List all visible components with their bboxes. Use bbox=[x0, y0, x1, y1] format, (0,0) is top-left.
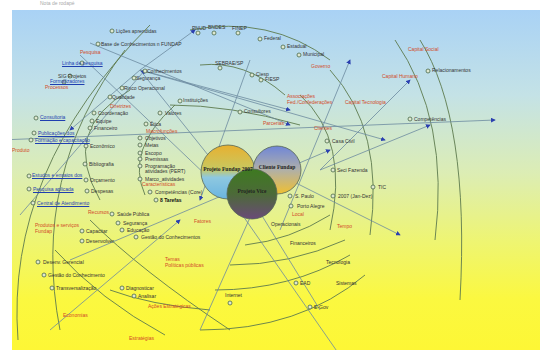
node-icon[interactable] bbox=[228, 301, 232, 305]
node-icon[interactable] bbox=[308, 305, 312, 309]
node-label: Base de Conhecimentos n FUNDAP bbox=[101, 41, 182, 47]
node-label: Coordenação bbox=[98, 110, 128, 116]
node-icon[interactable] bbox=[288, 194, 292, 198]
node-icon[interactable] bbox=[138, 164, 142, 168]
node-icon[interactable] bbox=[96, 42, 100, 46]
node-icon[interactable] bbox=[331, 194, 335, 198]
node-icon[interactable] bbox=[92, 111, 96, 115]
node-label: Risco Operacional bbox=[124, 85, 165, 91]
node-icon[interactable] bbox=[144, 122, 148, 126]
node-label: Metas bbox=[145, 142, 159, 148]
node-label[interactable]: Consultoria bbox=[40, 114, 65, 120]
node-label: FIESP bbox=[265, 76, 279, 82]
node-label: Desenv. Gerencial bbox=[43, 259, 84, 265]
node-icon[interactable] bbox=[138, 151, 142, 155]
node-icon[interactable] bbox=[110, 212, 114, 216]
node-icon[interactable] bbox=[31, 201, 35, 205]
node-icon[interactable] bbox=[80, 239, 84, 243]
axis-arc bbox=[330, 70, 373, 235]
node-icon[interactable] bbox=[80, 229, 84, 233]
node-icon[interactable] bbox=[259, 78, 263, 82]
node-icon[interactable] bbox=[85, 189, 89, 193]
node-label: BNDES bbox=[208, 24, 225, 30]
node-label: S. Paulo bbox=[295, 193, 314, 199]
node-icon[interactable] bbox=[426, 69, 430, 73]
node-icon[interactable] bbox=[27, 187, 31, 191]
node-icon[interactable] bbox=[250, 73, 254, 77]
node-icon[interactable] bbox=[36, 260, 40, 264]
node-icon[interactable] bbox=[138, 143, 142, 147]
node-label: Gestão do Conhecimentos bbox=[141, 234, 200, 240]
node-icon[interactable] bbox=[158, 111, 162, 115]
node-icon[interactable] bbox=[27, 174, 31, 178]
node-label: Instituições bbox=[183, 97, 208, 103]
node-label[interactable]: Estudos e ensaios dos bbox=[32, 172, 82, 178]
node-icon[interactable] bbox=[88, 126, 92, 130]
node-icon[interactable] bbox=[196, 31, 200, 35]
mind-map-diagram: Lições aprendidasBase de Conhecimentos n… bbox=[12, 10, 540, 350]
node-label: Capital Humano bbox=[382, 73, 418, 79]
node-icon[interactable] bbox=[218, 66, 222, 70]
node-icon[interactable] bbox=[148, 190, 152, 194]
node-icon[interactable] bbox=[258, 37, 262, 41]
footnote-caption: Nota de rodapé bbox=[40, 0, 74, 6]
axis-arc bbox=[300, 95, 336, 230]
node-icon[interactable] bbox=[34, 116, 38, 120]
node-icon[interactable] bbox=[120, 286, 124, 290]
node-label: Competências (Core) bbox=[155, 189, 203, 195]
node-icon[interactable] bbox=[116, 221, 120, 225]
node-label: Equipe bbox=[96, 118, 112, 124]
node-icon[interactable] bbox=[212, 31, 216, 35]
node-label: Capital Social bbox=[408, 46, 439, 52]
node-label: Federal bbox=[264, 35, 281, 41]
node-label: Governo bbox=[311, 63, 330, 69]
node-icon[interactable] bbox=[90, 119, 94, 123]
node-label: Casa Civil bbox=[332, 138, 355, 144]
node-label: atividades (PERT) bbox=[145, 168, 185, 174]
node-label: Financeiros bbox=[290, 240, 316, 246]
node-label: Saúde Pública bbox=[117, 211, 149, 217]
node-icon[interactable] bbox=[138, 157, 142, 161]
node-icon[interactable] bbox=[371, 185, 375, 189]
node-label: Economias bbox=[63, 312, 88, 318]
node-icon[interactable] bbox=[83, 162, 87, 166]
node-icon[interactable] bbox=[408, 117, 412, 121]
node-icon[interactable] bbox=[236, 31, 240, 35]
node-icon[interactable] bbox=[294, 281, 298, 285]
node-label: TIC bbox=[378, 184, 386, 190]
node-label: Gestão do Conhecimento bbox=[48, 272, 105, 278]
node-icon[interactable] bbox=[120, 228, 124, 232]
axis-arc bbox=[420, 40, 462, 300]
node-icon[interactable] bbox=[42, 273, 46, 277]
node-icon[interactable] bbox=[138, 136, 142, 140]
node-label: Educação bbox=[127, 227, 149, 233]
node-icon[interactable] bbox=[84, 144, 88, 148]
node-icon[interactable] bbox=[29, 138, 33, 142]
node-label[interactable]: Linha de pesquisa bbox=[62, 60, 103, 66]
node-label[interactable]: Formação e capacitação bbox=[35, 137, 90, 143]
node-label[interactable]: Pesquisa aplicada bbox=[33, 186, 74, 192]
node-icon[interactable] bbox=[84, 178, 88, 182]
node-label: Despesas bbox=[91, 188, 113, 194]
node-icon[interactable] bbox=[154, 198, 158, 202]
node-icon[interactable] bbox=[134, 235, 138, 239]
node-label: Processos bbox=[45, 84, 68, 90]
node-icon[interactable] bbox=[32, 131, 36, 135]
node-icon[interactable] bbox=[110, 29, 114, 33]
node-label[interactable]: Publicações dos bbox=[38, 130, 74, 136]
node-label[interactable]: Central de Atendimento bbox=[37, 200, 89, 206]
node-icon[interactable] bbox=[331, 168, 335, 172]
node-icon[interactable] bbox=[325, 139, 329, 143]
node-icon[interactable] bbox=[281, 45, 285, 49]
node-icon[interactable] bbox=[50, 286, 54, 290]
node-label: Objetivos bbox=[145, 135, 166, 141]
center-circle-c3[interactable] bbox=[227, 169, 277, 219]
node-label: Sistemas bbox=[336, 280, 357, 286]
node-icon[interactable] bbox=[297, 53, 301, 57]
node-label: EAD bbox=[300, 280, 310, 286]
node-icon[interactable] bbox=[289, 204, 293, 208]
node-icon[interactable] bbox=[238, 110, 242, 114]
node-label: Parcerias bbox=[263, 120, 284, 126]
node-icon[interactable] bbox=[132, 294, 136, 298]
node-icon[interactable] bbox=[178, 99, 182, 103]
